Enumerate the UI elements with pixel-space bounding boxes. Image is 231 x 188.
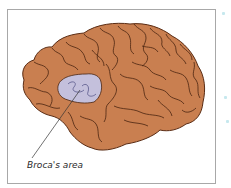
brain-outline xyxy=(23,23,205,150)
brocas-area xyxy=(58,74,102,103)
edge-artifact xyxy=(224,96,227,99)
edge-artifact xyxy=(222,12,225,15)
brocas-area-label: Broca's area xyxy=(27,160,83,170)
edge-artifact xyxy=(226,120,229,123)
